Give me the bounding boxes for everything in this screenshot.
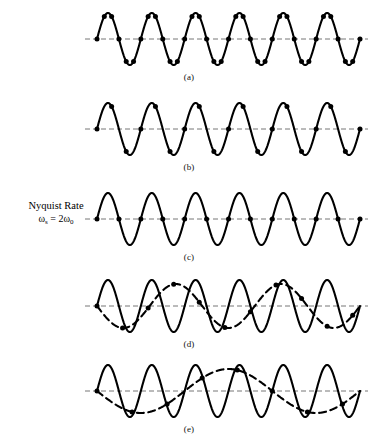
sample-point (299, 149, 304, 154)
sample-point (130, 409, 135, 414)
sample-point (336, 217, 341, 222)
sample-point (277, 14, 282, 19)
sample-point (95, 389, 100, 394)
sample-point (146, 14, 151, 19)
panel-b: (b) (0, 98, 378, 160)
sample-point (226, 127, 231, 132)
panel-d-plot (0, 275, 378, 337)
panel-b-svg (0, 98, 378, 160)
sample-point (350, 59, 355, 64)
sample-point (168, 149, 173, 154)
sample-point (235, 368, 240, 373)
sample-point (120, 325, 125, 330)
sample-point (168, 59, 173, 64)
sample-point (124, 149, 129, 154)
sample-point (270, 37, 275, 42)
sample-point (95, 304, 100, 309)
sample-point (292, 37, 297, 42)
panel-a-label: (a) (0, 72, 378, 82)
sample-point (255, 149, 260, 154)
sample-point (350, 313, 355, 318)
panel-c-plot (0, 188, 378, 250)
sample-point (109, 104, 114, 109)
sample-point (222, 325, 227, 330)
panel-e-plot (0, 360, 378, 422)
sample-point (284, 104, 289, 109)
panel-e: (e) (0, 360, 378, 422)
sample-point (200, 376, 205, 381)
panel-a-plot (0, 8, 378, 70)
sample-point (189, 14, 194, 19)
sample-point (241, 14, 246, 19)
sample-point (273, 283, 278, 288)
sample-point (328, 14, 333, 19)
sample-point (328, 104, 333, 109)
sample-point (233, 14, 238, 19)
sample-point (248, 37, 253, 42)
sample-point (343, 149, 348, 154)
panel-b-plot (0, 98, 378, 160)
sample-point (340, 401, 345, 406)
sample-point (197, 104, 202, 109)
sample-point (211, 149, 216, 154)
sample-point (292, 217, 297, 222)
sample-point (102, 14, 107, 19)
sample-point (248, 217, 253, 222)
sample-point (263, 59, 268, 64)
sample-point (358, 217, 363, 222)
sample-point (314, 217, 319, 222)
panel-c-svg (0, 188, 378, 250)
sample-point (299, 296, 304, 301)
sample-point (270, 389, 275, 394)
sample-point (255, 59, 260, 64)
sample-point (95, 37, 100, 42)
sample-point (116, 37, 121, 42)
sample-point (226, 217, 231, 222)
sample-point (175, 59, 180, 64)
panel-e-svg (0, 360, 378, 422)
panel-c: (c) (0, 188, 378, 250)
sample-point (182, 37, 187, 42)
sample-point (270, 217, 275, 222)
sample-point (131, 59, 136, 64)
sample-point (358, 37, 363, 42)
sample-point (204, 217, 209, 222)
sample-point (314, 127, 319, 132)
panel-d-svg (0, 275, 378, 337)
sample-point (358, 127, 363, 132)
sample-point (138, 37, 143, 42)
sample-point (306, 59, 311, 64)
panel-c-label: (c) (0, 252, 378, 262)
sample-point (305, 409, 310, 414)
sample-point (226, 37, 231, 42)
sample-point (95, 127, 100, 132)
panel-d: (d) (0, 275, 378, 337)
panel-a-svg (0, 8, 378, 70)
sample-point (343, 59, 348, 64)
panel-e-label: (e) (0, 424, 378, 434)
sample-point (270, 127, 275, 132)
sample-point (182, 127, 187, 132)
sample-point (211, 59, 216, 64)
sample-point (138, 217, 143, 222)
sample-point (153, 14, 158, 19)
sample-point (204, 37, 209, 42)
sample-point (116, 217, 121, 222)
sample-point (336, 37, 341, 42)
sample-point (325, 324, 330, 329)
panel-a: (a) (0, 8, 378, 70)
sample-point (197, 300, 202, 305)
sample-point (153, 104, 158, 109)
sample-point (241, 104, 246, 109)
sample-point (299, 59, 304, 64)
panel-b-label: (b) (0, 162, 378, 172)
sample-point (284, 14, 289, 19)
sample-point (197, 14, 202, 19)
sample-point (138, 127, 143, 132)
sample-point (146, 305, 151, 310)
sample-point (124, 59, 129, 64)
sample-point (171, 282, 176, 287)
sample-point (314, 37, 319, 42)
sample-point (95, 217, 100, 222)
sample-point (160, 217, 165, 222)
